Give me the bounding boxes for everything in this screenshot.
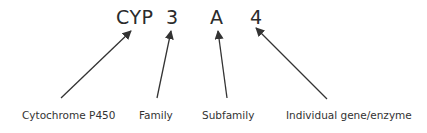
arrow-cyp <box>61 31 131 98</box>
arrow-family <box>157 31 171 98</box>
arrow-gene <box>256 28 327 99</box>
label-subfamily: Subfamily <box>202 109 254 121</box>
cyp-nomenclature-diagram: CYP 3 A 4 Cytochrome P450 Family Subfami… <box>0 0 427 133</box>
label-individual-gene-enzyme: Individual gene/enzyme <box>286 109 412 121</box>
label-family: Family <box>139 109 173 121</box>
arrow-subfamily <box>218 31 227 98</box>
label-cytochrome-p450: Cytochrome P450 <box>22 109 115 121</box>
